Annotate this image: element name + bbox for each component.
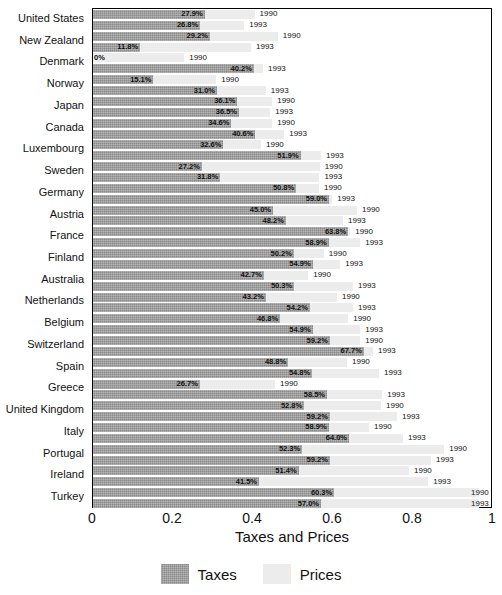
category-label-austria: Austria bbox=[50, 209, 84, 220]
bar-segment-taxes bbox=[93, 401, 304, 410]
bar-segment-taxes bbox=[93, 336, 330, 345]
legend-swatch-prices bbox=[263, 564, 291, 584]
bar-row: 48.2%1993 bbox=[93, 216, 493, 225]
bar-year-label: 1990 bbox=[353, 315, 371, 323]
bar-row: 27.9%1990 bbox=[93, 10, 493, 19]
bar-segment-prices bbox=[330, 412, 397, 421]
bar-row: 59.2%1993 bbox=[93, 412, 493, 421]
bar-value-label: 58.9% bbox=[305, 239, 326, 247]
category-label-sweden: Sweden bbox=[44, 165, 84, 176]
bar-segment-taxes bbox=[93, 195, 329, 204]
bar-row: 50.8%1990 bbox=[93, 184, 493, 193]
bar-year-label: 1993 bbox=[337, 195, 355, 203]
x-tick-label: 0.6 bbox=[322, 510, 341, 526]
bar-year-label: 1990 bbox=[355, 228, 373, 236]
bar-segment-prices bbox=[294, 282, 353, 291]
bar-segment-prices bbox=[334, 488, 479, 497]
bar-year-label: 1993 bbox=[289, 130, 307, 138]
bar-value-label: 51.9% bbox=[277, 152, 298, 160]
chart-legend: TaxesPrices bbox=[0, 558, 502, 590]
bar-value-label: 48.8% bbox=[265, 359, 286, 367]
bar-value-label: 15.1% bbox=[130, 76, 151, 84]
bar-segment-prices bbox=[312, 369, 379, 378]
bar-row: 64.0%1993 bbox=[93, 434, 493, 443]
bar-year-label: 1993 bbox=[408, 434, 426, 442]
bar-year-label: 1993 bbox=[384, 369, 402, 377]
bar-value-label: 29.2% bbox=[187, 32, 208, 40]
bar-row: 40.2%1993 bbox=[93, 64, 493, 73]
bar-value-label: 36.1% bbox=[214, 98, 235, 106]
bar-segment-prices bbox=[239, 108, 270, 117]
bar-segment-prices bbox=[329, 423, 369, 432]
bar-row: 46.8%1990 bbox=[93, 314, 493, 323]
bar-segment-taxes bbox=[93, 260, 313, 269]
bar-row: 36.5%1993 bbox=[93, 108, 493, 117]
bar-segment-taxes bbox=[93, 314, 280, 323]
bar-segment-prices bbox=[313, 260, 341, 269]
bar-year-label: 1993 bbox=[433, 478, 451, 486]
bar-row: 54.8%1993 bbox=[93, 369, 493, 378]
bar-row: 52.8%1990 bbox=[93, 401, 493, 410]
bar-year-label: 1990 bbox=[471, 489, 489, 497]
bar-segment-prices bbox=[330, 456, 431, 465]
bar-row: 59.2%1993 bbox=[93, 456, 493, 465]
bar-segment-prices bbox=[223, 140, 261, 149]
category-axis-labels: United StatesNew ZealandDenmarkNorwayJap… bbox=[0, 8, 88, 508]
bar-year-label: 1993 bbox=[358, 282, 376, 290]
bar-year-label: 1990 bbox=[189, 54, 207, 62]
bar-value-label: 54.8% bbox=[289, 369, 310, 377]
bar-segment-taxes bbox=[93, 227, 348, 236]
bar-segment-taxes bbox=[93, 412, 330, 421]
bar-year-label: 1993 bbox=[365, 326, 383, 334]
category-label-portugal: Portugal bbox=[43, 448, 84, 459]
bar-year-label: 1993 bbox=[471, 500, 489, 508]
category-label-united-states: United States bbox=[18, 13, 84, 24]
bar-segment-prices bbox=[288, 358, 347, 367]
bar-segment-taxes bbox=[93, 282, 294, 291]
bar-value-label: 64.0% bbox=[326, 435, 347, 443]
bar-segment-prices bbox=[217, 86, 266, 95]
category-label-spain: Spain bbox=[56, 361, 84, 372]
bar-value-label: 58.5% bbox=[304, 391, 325, 399]
bar-year-label: 1990 bbox=[414, 467, 432, 475]
bar-year-label: 1990 bbox=[266, 141, 284, 149]
bar-year-label: 1993 bbox=[348, 217, 366, 225]
bar-row: 50.2%1990 bbox=[93, 249, 493, 258]
bar-value-label: 46.8% bbox=[257, 315, 278, 323]
bar-year-label: 1993 bbox=[249, 21, 267, 29]
bar-value-label: 58.9% bbox=[305, 424, 326, 432]
category-label-new-zealand: New Zealand bbox=[19, 35, 84, 46]
bar-segment-taxes bbox=[93, 477, 259, 486]
bar-segment-prices bbox=[237, 97, 272, 106]
bar-segment-taxes bbox=[93, 130, 255, 139]
x-tick-label: 0.2 bbox=[162, 510, 181, 526]
bar-value-label: 54.2% bbox=[287, 304, 308, 312]
bar-year-label: 1990 bbox=[277, 119, 295, 127]
bar-row: 34.6%1990 bbox=[93, 119, 493, 128]
bar-segment-prices bbox=[302, 445, 444, 454]
x-tick-label: 0 bbox=[88, 510, 96, 526]
bar-value-label: 51.4% bbox=[275, 467, 296, 475]
bar-value-label: 40.2% bbox=[231, 65, 252, 73]
category-label-japan: Japan bbox=[54, 100, 84, 111]
bar-row: 63.8%1990 bbox=[93, 227, 493, 236]
bar-segment-prices bbox=[210, 32, 278, 41]
bar-value-label: 40.6% bbox=[232, 130, 253, 138]
bar-value-label: 50.8% bbox=[273, 185, 294, 193]
bar-year-label: 1990 bbox=[324, 184, 342, 192]
bar-segment-prices bbox=[93, 53, 184, 62]
x-axis-title: Taxes and Prices bbox=[92, 528, 492, 545]
bar-year-label: 1990 bbox=[277, 97, 295, 105]
bar-segment-prices bbox=[140, 43, 251, 52]
bar-year-label: 1990 bbox=[352, 358, 370, 366]
bar-row: 51.4%1990 bbox=[93, 466, 493, 475]
bar-value-label: 36.5% bbox=[216, 109, 237, 117]
bar-value-label: 27.2% bbox=[179, 163, 200, 171]
bar-segment-prices bbox=[330, 336, 360, 345]
bar-value-label: 26.7% bbox=[177, 380, 198, 388]
bar-segment-prices bbox=[294, 249, 324, 258]
bar-segment-prices bbox=[329, 238, 361, 247]
bar-row: 50.3%1993 bbox=[93, 282, 493, 291]
bar-row: 48.8%1990 bbox=[93, 358, 493, 367]
bar-segment-prices bbox=[348, 227, 350, 236]
